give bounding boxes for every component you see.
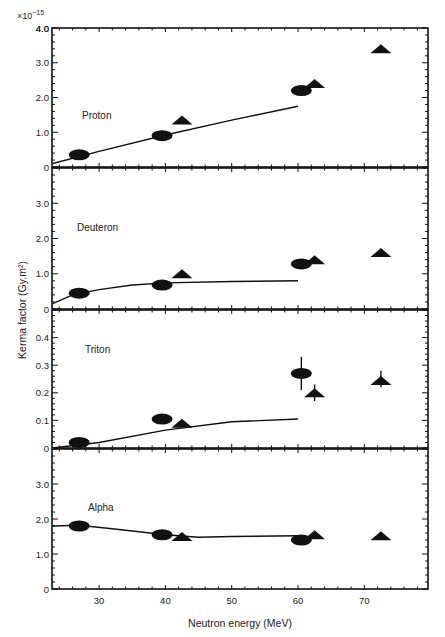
y-axis-label: Kerma factor (Gy.m²)	[16, 261, 28, 359]
y-tick-label: 0	[44, 584, 49, 595]
panel-deuteron: 01.02.03.0Deuteron	[36, 168, 428, 315]
y-tick-label: 0	[44, 162, 49, 173]
triangle-marker	[370, 376, 391, 385]
circle-marker	[69, 149, 90, 160]
y-tick-label: 2.0	[36, 514, 49, 525]
kerma-factor-figure: ×10−15 01.02.03.04.04.0Proton01.02.03.0D…	[0, 0, 445, 637]
x-axis-label: Neutron energy (MeV)	[188, 617, 292, 629]
panel-title: Deuteron	[77, 222, 118, 233]
y-tick-label: 0	[44, 443, 49, 454]
panel-title: Alpha	[88, 502, 114, 513]
y-tick-label: 3.0	[36, 479, 49, 490]
panel-triton: 00.10.20.30.4Triton	[36, 310, 428, 454]
x-tick-label: 30	[94, 595, 105, 606]
circle-marker	[152, 280, 173, 291]
y-multiplier: ×10−15	[17, 9, 44, 21]
y-tick-label: 0.2	[36, 387, 49, 398]
triangle-marker	[171, 419, 192, 428]
y-tick-label: 2.0	[36, 233, 49, 244]
svg-text:4.0: 4.0	[36, 23, 49, 34]
y-tick-label: 1.0	[36, 549, 49, 560]
y-tick-label: 1.0	[36, 127, 49, 138]
triangle-marker	[370, 248, 391, 257]
circle-marker	[152, 130, 173, 141]
triangle-marker	[171, 116, 192, 125]
y-tick-label: 0.3	[36, 360, 49, 371]
circle-marker	[152, 529, 173, 540]
circle-marker	[69, 521, 90, 532]
triangle-marker	[304, 388, 325, 397]
triangle-marker	[171, 269, 192, 278]
panel-title: Triton	[85, 344, 110, 355]
triangle-marker	[304, 530, 325, 539]
y-tick-label: 0	[44, 304, 49, 315]
calculation-curve	[53, 525, 298, 537]
panel-title: Proton	[82, 110, 111, 121]
circle-marker	[69, 437, 90, 448]
chart-canvas: 01.02.03.04.04.0Proton01.02.03.0Deuteron…	[0, 0, 445, 637]
circle-marker	[69, 288, 90, 299]
circle-marker	[152, 414, 173, 425]
panel-proton: 01.02.03.04.04.0Proton	[36, 23, 428, 173]
x-tick-label: 50	[226, 595, 237, 606]
y-tick-label: 0.1	[36, 415, 49, 426]
x-tick-label: 40	[160, 595, 171, 606]
x-tick-label: 60	[293, 595, 304, 606]
triangle-marker	[370, 531, 391, 540]
x-tick-label: 70	[359, 595, 370, 606]
y-tick-label: 2.0	[36, 92, 49, 103]
triangle-marker	[370, 44, 391, 53]
panel-alpha: 01.02.03.0Alpha3040506070	[36, 449, 428, 606]
y-tick-label: 0.4	[36, 332, 49, 343]
calculation-curve	[53, 419, 298, 448]
triangle-marker	[304, 79, 325, 88]
y-tick-label: 1.0	[36, 268, 49, 279]
circle-marker	[291, 368, 312, 379]
y-tick-label: 3.0	[36, 198, 49, 209]
y-tick-label: 3.0	[36, 57, 49, 68]
